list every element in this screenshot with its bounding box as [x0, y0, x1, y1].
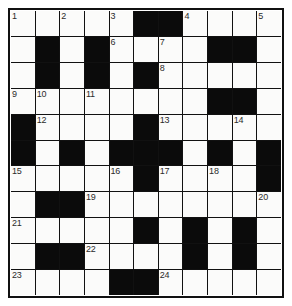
crossword-block-cell — [110, 141, 134, 166]
crossword-open-cell[interactable] — [110, 218, 134, 243]
crossword-open-cell[interactable]: 4 — [183, 11, 207, 36]
crossword-open-cell[interactable] — [233, 141, 257, 166]
crossword-open-cell[interactable] — [11, 192, 35, 217]
crossword-open-cell[interactable] — [159, 192, 183, 217]
crossword-open-cell[interactable] — [183, 192, 207, 217]
crossword-open-cell[interactable]: 2 — [60, 11, 84, 36]
crossword-open-cell[interactable] — [257, 89, 281, 114]
crossword-open-cell[interactable] — [208, 11, 232, 36]
crossword-open-cell[interactable] — [208, 63, 232, 88]
crossword-open-cell[interactable]: 9 — [11, 89, 35, 114]
crossword-open-cell[interactable] — [159, 218, 183, 243]
crossword-open-cell[interactable] — [134, 244, 158, 269]
crossword-open-cell[interactable] — [36, 218, 60, 243]
crossword-open-cell[interactable]: 19 — [85, 192, 109, 217]
clue-number: 19 — [86, 192, 96, 202]
clue-number: 23 — [12, 270, 22, 280]
crossword-open-cell[interactable]: 13 — [159, 115, 183, 140]
crossword-block-cell — [85, 63, 109, 88]
crossword-open-cell[interactable]: 11 — [85, 89, 109, 114]
crossword-open-cell[interactable] — [85, 11, 109, 36]
crossword-open-cell[interactable] — [11, 37, 35, 62]
crossword-open-cell[interactable] — [110, 244, 134, 269]
crossword-open-cell[interactable]: 17 — [159, 166, 183, 191]
crossword-open-cell[interactable] — [36, 270, 60, 295]
clue-number: 13 — [160, 115, 170, 125]
crossword-open-cell[interactable]: 21 — [11, 218, 35, 243]
crossword-open-cell[interactable]: 22 — [85, 244, 109, 269]
crossword-open-cell[interactable] — [208, 115, 232, 140]
clue-number: 17 — [160, 166, 170, 176]
crossword-open-cell[interactable] — [183, 270, 207, 295]
crossword-open-cell[interactable] — [85, 115, 109, 140]
crossword-open-cell[interactable] — [159, 89, 183, 114]
crossword-open-cell[interactable] — [60, 63, 84, 88]
crossword-open-cell[interactable] — [110, 192, 134, 217]
crossword-block-cell — [159, 141, 183, 166]
crossword-open-cell[interactable] — [183, 63, 207, 88]
crossword-open-cell[interactable] — [183, 115, 207, 140]
crossword-open-cell[interactable] — [208, 270, 232, 295]
crossword-open-cell[interactable] — [233, 166, 257, 191]
crossword-open-cell[interactable]: 5 — [257, 11, 281, 36]
crossword-open-cell[interactable]: 16 — [110, 166, 134, 191]
crossword-open-cell[interactable] — [233, 270, 257, 295]
crossword-open-cell[interactable] — [60, 89, 84, 114]
crossword-block-cell — [134, 63, 158, 88]
crossword-open-cell[interactable] — [257, 63, 281, 88]
crossword-open-cell[interactable] — [208, 244, 232, 269]
crossword-open-cell[interactable] — [208, 192, 232, 217]
crossword-open-cell[interactable]: 23 — [11, 270, 35, 295]
crossword-open-cell[interactable] — [183, 166, 207, 191]
crossword-open-cell[interactable] — [60, 270, 84, 295]
crossword-open-cell[interactable] — [36, 11, 60, 36]
crossword-open-cell[interactable] — [60, 37, 84, 62]
crossword-open-cell[interactable] — [233, 192, 257, 217]
crossword-open-cell[interactable]: 18 — [208, 166, 232, 191]
crossword-open-cell[interactable] — [257, 218, 281, 243]
crossword-open-cell[interactable]: 15 — [11, 166, 35, 191]
crossword-open-cell[interactable]: 3 — [110, 11, 134, 36]
crossword-open-cell[interactable] — [110, 63, 134, 88]
crossword-open-cell[interactable]: 7 — [159, 37, 183, 62]
crossword-open-cell[interactable] — [85, 270, 109, 295]
crossword-open-cell[interactable] — [36, 166, 60, 191]
crossword-open-cell[interactable] — [208, 218, 232, 243]
crossword-open-cell[interactable] — [36, 141, 60, 166]
crossword-open-cell[interactable] — [60, 115, 84, 140]
crossword-open-cell[interactable] — [85, 141, 109, 166]
crossword-open-cell[interactable] — [257, 37, 281, 62]
clue-number: 6 — [111, 37, 116, 47]
crossword-open-cell[interactable] — [183, 37, 207, 62]
crossword-open-cell[interactable]: 12 — [36, 115, 60, 140]
crossword-open-cell[interactable] — [159, 244, 183, 269]
crossword-open-cell[interactable] — [233, 63, 257, 88]
crossword-open-cell[interactable] — [110, 89, 134, 114]
crossword-open-cell[interactable]: 8 — [159, 63, 183, 88]
crossword-open-cell[interactable] — [60, 218, 84, 243]
crossword-open-cell[interactable] — [134, 192, 158, 217]
crossword-open-cell[interactable] — [257, 115, 281, 140]
clue-number: 12 — [37, 115, 47, 125]
crossword-open-cell[interactable]: 20 — [257, 192, 281, 217]
crossword-open-cell[interactable] — [60, 166, 84, 191]
crossword-block-cell — [183, 218, 207, 243]
crossword-open-cell[interactable]: 14 — [233, 115, 257, 140]
crossword-open-cell[interactable] — [183, 89, 207, 114]
crossword-open-cell[interactable] — [11, 63, 35, 88]
crossword-open-cell[interactable] — [257, 270, 281, 295]
crossword-open-cell[interactable] — [110, 115, 134, 140]
crossword-open-cell[interactable] — [134, 89, 158, 114]
crossword-open-cell[interactable] — [11, 244, 35, 269]
crossword-open-cell[interactable] — [233, 11, 257, 36]
crossword-open-cell[interactable] — [85, 218, 109, 243]
crossword-open-cell[interactable]: 10 — [36, 89, 60, 114]
crossword-block-cell — [134, 166, 158, 191]
crossword-open-cell[interactable] — [85, 166, 109, 191]
crossword-open-cell[interactable] — [134, 37, 158, 62]
crossword-open-cell[interactable]: 1 — [11, 11, 35, 36]
crossword-open-cell[interactable] — [257, 244, 281, 269]
crossword-open-cell[interactable]: 6 — [110, 37, 134, 62]
crossword-open-cell[interactable] — [183, 141, 207, 166]
crossword-open-cell[interactable]: 24 — [159, 270, 183, 295]
